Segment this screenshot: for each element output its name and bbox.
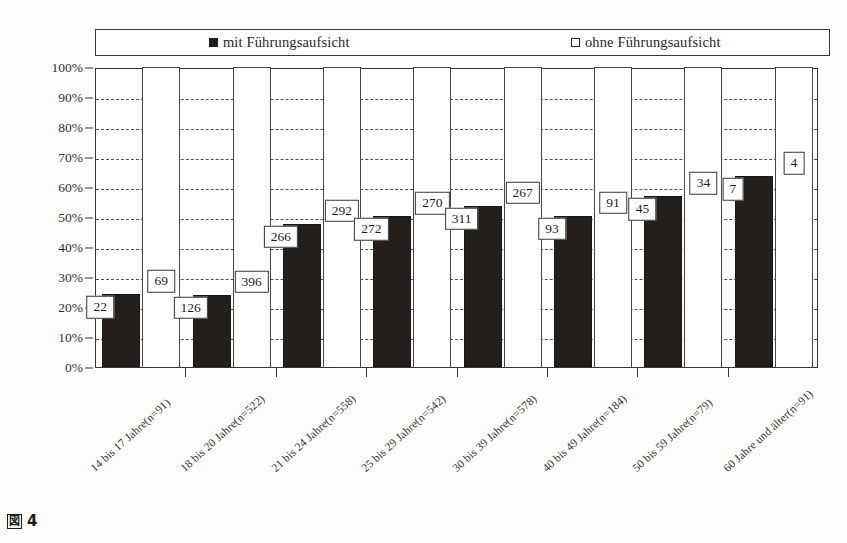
bar-ohne-fuehrungsaufsicht[interactable] bbox=[233, 67, 271, 367]
legend-item-mit: mit Führungsaufsicht bbox=[96, 34, 463, 51]
value-callout-ohne: 34 bbox=[690, 172, 718, 195]
empty-square-icon bbox=[571, 38, 580, 47]
y-tick-mark bbox=[85, 368, 93, 369]
y-tick-mark bbox=[85, 98, 93, 99]
bar-mit-fuehrungsaufsicht[interactable] bbox=[644, 196, 682, 367]
bar-ohne-fuehrungsaufsicht[interactable] bbox=[142, 67, 180, 367]
x-axis-label: 25 bis 29 Jahre(n=542) bbox=[359, 392, 448, 474]
y-tick-mark bbox=[85, 128, 93, 129]
value-callout-ohne: 91 bbox=[599, 191, 627, 214]
x-axis-label: 60 Jahre und älter(n=91) bbox=[721, 388, 815, 474]
x-axis-label: 50 bis 59 Jahre(n=79) bbox=[630, 396, 714, 474]
y-tick-mark bbox=[85, 188, 93, 189]
bar-ohne-fuehrungsaufsicht[interactable] bbox=[775, 67, 813, 367]
figure-marker-glyph: 図 bbox=[7, 514, 22, 529]
figure-caption: 図 4 bbox=[7, 512, 37, 530]
value-callout-ohne: 396 bbox=[234, 270, 268, 293]
y-tick-label: 30% bbox=[58, 270, 83, 286]
plot-inner: 22691263962662922722703112679391453474 bbox=[96, 69, 817, 367]
value-callout-ohne: 69 bbox=[147, 270, 175, 293]
x-axis-label: 18 bis 20 Jahre(n=522) bbox=[178, 392, 267, 474]
value-callout-mit: 7 bbox=[722, 178, 743, 201]
plot-area: 22691263962662922722703112679391453474 bbox=[95, 68, 818, 368]
value-callout-mit: 22 bbox=[86, 296, 114, 319]
y-tick-label: 60% bbox=[58, 180, 83, 196]
y-tick-label: 10% bbox=[58, 330, 83, 346]
x-axis-label: 21 bis 24 Jahre(n=558) bbox=[269, 392, 358, 474]
legend-label-mit: mit Führungsaufsicht bbox=[223, 34, 350, 51]
value-callout-ohne: 267 bbox=[506, 181, 540, 204]
y-tick-label: 0% bbox=[65, 360, 83, 376]
value-callout-mit: 93 bbox=[538, 217, 566, 240]
y-tick-label: 90% bbox=[58, 90, 83, 106]
x-axis-labels: 14 bis 17 Jahre(n=91)18 bis 20 Jahre(n=5… bbox=[0, 376, 847, 501]
y-tick-mark bbox=[85, 158, 93, 159]
y-tick-label: 20% bbox=[58, 300, 83, 316]
value-callout-mit: 266 bbox=[264, 226, 298, 249]
y-tick-mark bbox=[85, 338, 93, 339]
legend-item-ohne: ohne Führungsaufsicht bbox=[463, 34, 830, 51]
x-axis-label: 30 bis 39 Jahre(n=578) bbox=[449, 392, 538, 474]
bar-ohne-fuehrungsaufsicht[interactable] bbox=[504, 67, 542, 367]
x-axis-label: 40 bis 49 Jahre(n=184) bbox=[540, 392, 629, 474]
value-callout-mit: 272 bbox=[354, 218, 388, 241]
y-tick-mark bbox=[85, 218, 93, 219]
x-axis-label: 14 bis 17 Jahre(n=91) bbox=[88, 396, 172, 474]
legend-label-ohne: ohne Führungsaufsicht bbox=[585, 34, 721, 51]
y-tick-label: 70% bbox=[58, 150, 83, 166]
bar-ohne-fuehrungsaufsicht[interactable] bbox=[684, 67, 722, 367]
y-axis: 100%90%80%70%60%50%40%30%20%10%0% bbox=[0, 68, 93, 368]
y-tick-label: 100% bbox=[52, 60, 84, 76]
bar-ohne-fuehrungsaufsicht[interactable] bbox=[594, 67, 632, 367]
bar-mit-fuehrungsaufsicht[interactable] bbox=[735, 176, 773, 367]
chart-legend: mit Führungsaufsicht ohne Führungsaufsic… bbox=[95, 29, 830, 56]
filled-square-icon bbox=[209, 38, 218, 47]
figure-number: 4 bbox=[27, 512, 37, 530]
y-tick-label: 80% bbox=[58, 120, 83, 136]
y-tick-mark bbox=[85, 278, 93, 279]
value-callout-mit: 45 bbox=[629, 198, 657, 221]
y-tick-mark bbox=[85, 68, 93, 69]
y-tick-label: 40% bbox=[58, 240, 83, 256]
value-callout-ohne: 4 bbox=[783, 152, 804, 175]
value-callout-mit: 311 bbox=[445, 207, 479, 230]
y-tick-mark bbox=[85, 248, 93, 249]
value-callout-mit: 126 bbox=[173, 296, 207, 319]
y-tick-label: 50% bbox=[58, 210, 83, 226]
